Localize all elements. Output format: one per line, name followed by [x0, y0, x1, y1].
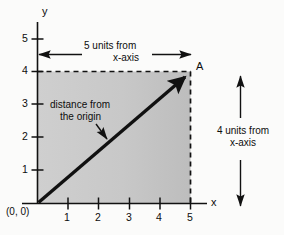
distance-note-line1: distance from	[50, 99, 110, 111]
origin-label: (0, 0)	[6, 206, 29, 217]
x-tick-label-2: 2	[95, 212, 101, 223]
x-tick-label-5: 5	[187, 212, 193, 223]
y-tick-label-4: 4	[22, 65, 28, 76]
x-axis-label: x	[211, 197, 217, 208]
figure-graphics	[0, 0, 284, 235]
x-tick-label-1: 1	[64, 212, 70, 223]
y-tick-label-1: 1	[22, 164, 28, 175]
vertical-measure-label-line2: x-axis	[206, 137, 280, 149]
y-axis-label: y	[42, 6, 48, 17]
x-tick-label-4: 4	[156, 212, 162, 223]
horizontal-measure-label-line1: 5 units from	[84, 40, 168, 52]
vertical-measure-label-line1: 4 units from	[206, 125, 280, 137]
y-tick-label-3: 3	[22, 98, 28, 109]
horizontal-measure-label-line2: x-axis	[84, 52, 168, 64]
coordinate-plane-figure: y x 5 4 3 2 1 1 2 3 4 5 (0, 0) A 5 units…	[0, 0, 284, 235]
point-a-label: A	[196, 61, 203, 72]
y-tick-label-2: 2	[22, 131, 28, 142]
y-tick-label-5: 5	[22, 33, 28, 44]
x-tick-label-3: 3	[126, 212, 132, 223]
distance-note-line2: the origin	[60, 111, 101, 123]
